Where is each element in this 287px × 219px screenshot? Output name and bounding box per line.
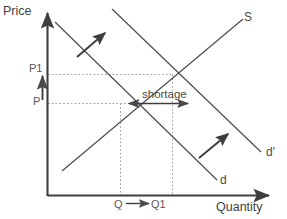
axes xyxy=(48,13,270,196)
supply-demand-diagram: Price Quantity P1 P Q Q1 S d d' shortage xyxy=(0,0,287,219)
y-axis-title: Price xyxy=(3,5,31,18)
shortage-label: shortage xyxy=(142,89,187,101)
demand-curve-new-label: d' xyxy=(266,146,275,158)
supply-curve-label: S xyxy=(244,11,252,23)
x-axis-title: Quantity xyxy=(216,201,263,214)
y-axis-tick-p1: P1 xyxy=(29,63,42,74)
x-axis-tick-q: Q xyxy=(114,199,123,210)
diagram-canvas xyxy=(0,0,287,219)
x-axis-tick-q1: Q1 xyxy=(151,199,166,210)
annotation-arrows xyxy=(43,33,229,204)
demand-curve-new xyxy=(112,9,261,152)
demand-curve-initial-label: d xyxy=(220,174,227,186)
demand-shift-arrow-upper xyxy=(77,33,105,57)
y-axis-tick-p: P xyxy=(33,96,40,107)
demand-shift-arrow-lower xyxy=(199,134,228,158)
